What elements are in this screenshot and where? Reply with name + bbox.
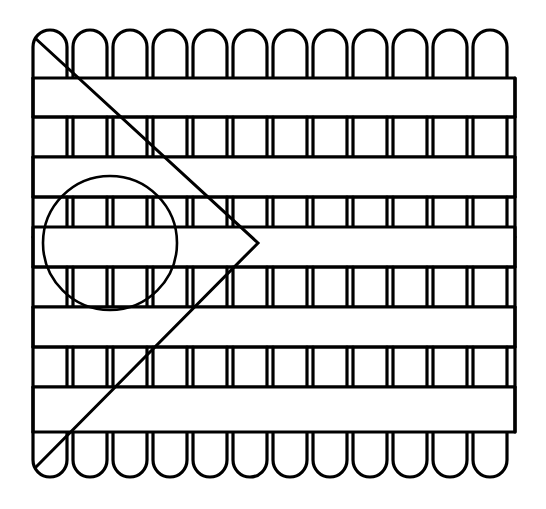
slat-over [33,227,515,267]
slat-over [33,78,515,117]
slat-over [33,307,515,347]
figure-root [0,0,546,509]
slat-over [33,387,515,432]
fence-group [33,30,515,477]
woven-fence-drawing [0,0,546,509]
